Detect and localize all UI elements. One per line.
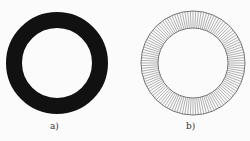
hatched-ring-b — [141, 11, 245, 115]
solid-ring-a — [14, 20, 100, 106]
figure-label-b: b) — [186, 121, 195, 131]
figure-canvas — [0, 0, 250, 141]
figure-label-a: a) — [50, 121, 59, 131]
